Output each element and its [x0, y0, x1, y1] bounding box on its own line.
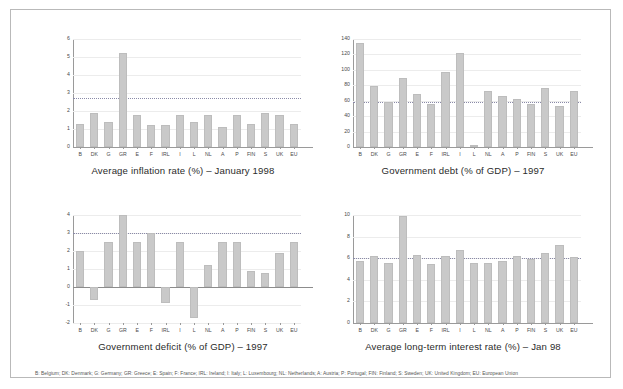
x-axis-tick	[265, 147, 266, 149]
x-axis-tick	[574, 147, 575, 149]
x-axis-tick	[474, 147, 475, 149]
x-axis-tick-label: NL	[485, 152, 492, 157]
bar	[104, 242, 112, 287]
x-axis-tick	[123, 323, 124, 325]
x-axis-tick-label: S	[544, 328, 547, 333]
bar	[513, 256, 521, 323]
x-axis-tick-label: UK	[276, 328, 283, 333]
gridline	[73, 215, 301, 216]
x-axis-tick	[531, 323, 532, 325]
x-axis-tick	[251, 147, 252, 149]
bar	[513, 99, 521, 147]
x-axis-tick	[431, 147, 432, 149]
x-axis-tick	[251, 323, 252, 325]
x-axis-tick	[446, 323, 447, 325]
x-axis-tick	[94, 323, 95, 325]
x-axis-tick	[80, 323, 81, 325]
x-axis-tick	[208, 147, 209, 149]
x-axis-tick	[389, 323, 390, 325]
bar	[261, 273, 269, 287]
bar	[133, 115, 141, 147]
x-axis-tick	[180, 323, 181, 325]
x-axis-tick-label: EU	[570, 152, 577, 157]
bar	[119, 53, 127, 147]
y-axis-tick-label: 2	[43, 108, 70, 113]
x-axis-tick-label: P	[235, 152, 238, 157]
x-axis-tick	[503, 147, 504, 149]
x-axis-tick-label: GR	[399, 152, 407, 157]
x-axis-tick-label: A	[501, 152, 504, 157]
gridline	[353, 85, 581, 86]
x-axis-tick	[446, 147, 447, 149]
x-axis-tick	[166, 147, 167, 149]
y-axis-tick-label: 40	[323, 114, 350, 119]
x-axis-tick	[360, 323, 361, 325]
y-axis-tick-label: 120	[323, 52, 350, 57]
bar	[484, 263, 492, 323]
y-axis-tick-label: 140	[323, 36, 350, 41]
x-axis-tick	[237, 323, 238, 325]
x-axis-tick	[280, 147, 281, 149]
bar	[356, 43, 364, 147]
y-axis-tick-label: 2	[323, 299, 350, 304]
y-axis-tick-label: -1	[43, 302, 70, 307]
bar	[176, 115, 184, 147]
bar	[247, 271, 255, 287]
x-axis-tick-label: EU	[290, 328, 297, 333]
bar	[427, 264, 435, 323]
x-axis-tick-label: GR	[119, 152, 127, 157]
x-axis-tick-label: GR	[119, 328, 127, 333]
x-axis-tick-label: UK	[276, 152, 283, 157]
bar	[441, 256, 449, 323]
chart-caption-deficit: Government deficit (% of GDP) – 1997	[43, 341, 323, 352]
chart-panel-inflation: 0123456BDKGGREFIRLILNLAPFINSUKEUAverage …	[43, 33, 323, 201]
reference-threshold-line	[73, 98, 301, 99]
gridline	[353, 70, 581, 71]
bar	[147, 125, 155, 147]
x-axis-tick-label: G	[387, 328, 391, 333]
bar	[233, 115, 241, 147]
y-axis-tick-label: 4	[43, 72, 70, 77]
bar	[76, 251, 84, 287]
x-axis-tick-label: L	[473, 152, 476, 157]
x-axis-tick-label: L	[473, 328, 476, 333]
bar	[456, 53, 464, 147]
x-axis-tick-label: S	[544, 152, 547, 157]
x-axis-tick-label: S	[264, 328, 267, 333]
plot-area-interest: 0246810BDKGGREFIRLILNLAPFINSUKEU	[323, 209, 603, 339]
bar	[484, 91, 492, 147]
x-axis-tick	[560, 323, 561, 325]
y-axis-tick-label: 4	[323, 277, 350, 282]
bar	[441, 72, 449, 147]
x-axis-tick	[531, 147, 532, 149]
x-axis-tick-label: G	[107, 152, 111, 157]
x-axis-tick-label: DK	[91, 152, 98, 157]
x-axis-tick	[488, 323, 489, 325]
x-axis-tick-label: F	[150, 152, 153, 157]
x-axis-tick	[151, 147, 152, 149]
bar	[247, 124, 255, 147]
x-axis-tick	[166, 323, 167, 325]
y-axis-tick-label: 0	[323, 320, 350, 325]
x-axis-tick	[180, 147, 181, 149]
x-axis-tick-label: FIN	[527, 152, 535, 157]
bar	[261, 113, 269, 147]
x-axis-tick	[137, 147, 138, 149]
x-axis-tick-label: IRL	[442, 328, 450, 333]
x-axis-tick	[294, 147, 295, 149]
bar	[190, 287, 198, 318]
x-axis-tick	[151, 323, 152, 325]
gridline	[73, 93, 301, 94]
chart-panel-debt: 020406080100120140BDKGGREFIRLILNLAPFINSU…	[323, 33, 603, 201]
bar	[527, 104, 535, 147]
x-axis-tick	[194, 323, 195, 325]
x-axis-tick-label: B	[78, 328, 81, 333]
bar	[290, 242, 298, 287]
x-axis-tick	[417, 147, 418, 149]
y-axis-tick-label: 4	[43, 212, 70, 217]
x-axis-tick-label: UK	[556, 152, 563, 157]
x-axis-tick-label: FIN	[247, 328, 255, 333]
bar	[204, 115, 212, 147]
y-axis-tick-label: 1	[43, 266, 70, 271]
x-axis-tick-label: P	[235, 328, 238, 333]
